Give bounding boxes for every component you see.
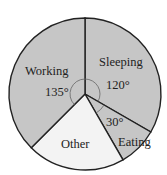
pie-chart: Sleeping 120° Working 135° 30° Eating Ot… (0, 0, 167, 175)
label-working-angle: 135° (45, 85, 69, 99)
label-sleeping: Sleeping (99, 55, 143, 69)
label-sleeping-angle: 120° (106, 78, 130, 92)
label-eating-angle: 30° (106, 115, 124, 129)
label-eating: Eating (118, 135, 151, 149)
label-other: Other (61, 137, 90, 151)
label-working: Working (25, 64, 69, 78)
